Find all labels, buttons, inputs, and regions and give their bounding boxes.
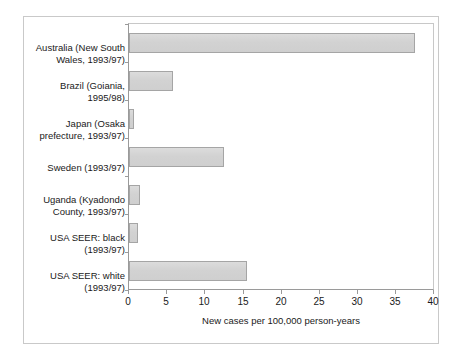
x-axis-title: New cases per 100,000 person-years bbox=[128, 315, 434, 326]
category-tick bbox=[125, 100, 129, 101]
bar-row-usa-seer-black bbox=[129, 214, 433, 252]
bar-row-brazil bbox=[129, 62, 433, 100]
x-tick-label-10: 10 bbox=[184, 296, 224, 307]
x-tick-label-20: 20 bbox=[261, 296, 301, 307]
category-label-uganda: Uganda (Kyadondo County, 1993/97) bbox=[0, 194, 125, 218]
category-tick bbox=[125, 62, 129, 63]
bar-usa-seer-white[interactable] bbox=[129, 261, 247, 281]
plot-area bbox=[128, 23, 434, 290]
x-tick bbox=[281, 290, 282, 294]
x-tick bbox=[357, 290, 358, 294]
category-label-australia: Australia (New South Wales, 1993/97) bbox=[0, 42, 125, 66]
category-tick bbox=[125, 176, 129, 177]
category-label-japan: Japan (Osaka prefecture, 1993/97) bbox=[0, 118, 125, 142]
bar-australia[interactable] bbox=[129, 33, 415, 53]
x-tick-label-0: 0 bbox=[108, 296, 148, 307]
x-tick bbox=[395, 290, 396, 294]
x-tick-label-35: 35 bbox=[375, 296, 415, 307]
bar-row-australia bbox=[129, 24, 433, 62]
category-label-brazil: Brazil (Goiania, 1995/98) bbox=[0, 80, 125, 104]
bar-brazil[interactable] bbox=[129, 71, 173, 91]
x-tick-label-40: 40 bbox=[413, 296, 453, 307]
bar-sweden[interactable] bbox=[129, 147, 224, 167]
bar-row-uganda bbox=[129, 176, 433, 214]
category-label-usa-seer-white: USA SEER: white (1993/97) bbox=[0, 270, 125, 294]
category-label-sweden: Sweden (1993/97) bbox=[0, 162, 125, 174]
x-tick-label-25: 25 bbox=[299, 296, 339, 307]
x-tick bbox=[433, 290, 434, 294]
category-label-usa-seer-black: USA SEER: black (1993/97) bbox=[0, 232, 125, 256]
category-tick bbox=[125, 214, 129, 215]
chart-figure: Australia (New South Wales, 1993/97) Bra… bbox=[23, 16, 439, 344]
category-tick bbox=[125, 138, 129, 139]
category-tick bbox=[125, 24, 129, 25]
x-tick-label-15: 15 bbox=[223, 296, 263, 307]
bar-row-japan bbox=[129, 100, 433, 138]
x-tick bbox=[243, 290, 244, 294]
bar-row-usa-seer-white bbox=[129, 252, 433, 290]
category-tick bbox=[125, 252, 129, 253]
x-tick bbox=[128, 290, 129, 294]
bar-uganda[interactable] bbox=[129, 185, 140, 205]
bar-row-sweden bbox=[129, 138, 433, 176]
bar-japan[interactable] bbox=[129, 109, 134, 129]
x-tick-label-30: 30 bbox=[337, 296, 377, 307]
x-tick bbox=[166, 290, 167, 294]
x-tick bbox=[204, 290, 205, 294]
x-tick bbox=[319, 290, 320, 294]
x-tick-label-5: 5 bbox=[146, 296, 186, 307]
bar-usa-seer-black[interactable] bbox=[129, 223, 138, 243]
